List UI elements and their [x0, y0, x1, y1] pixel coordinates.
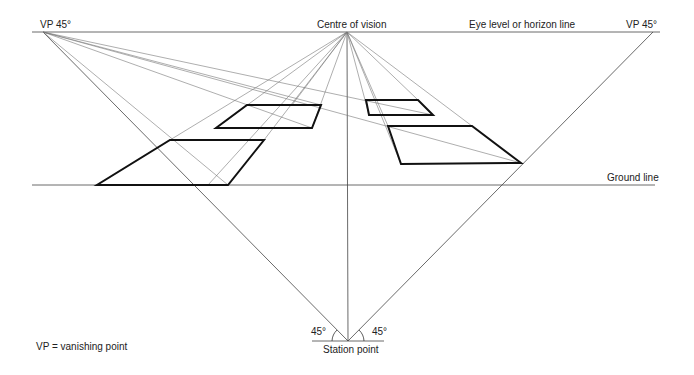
central-axis	[347, 32, 348, 341]
horizon-label: Eye level or horizon line	[469, 19, 575, 31]
small-left-square	[216, 105, 321, 128]
angle-right-label: 45°	[372, 326, 387, 338]
station-point-label: Station point	[323, 344, 379, 356]
angle-arc-right	[359, 330, 364, 341]
angle-arc-left	[332, 330, 337, 341]
vp-left-label: VP 45°	[40, 19, 71, 31]
centre-of-vision-label: Centre of vision	[317, 19, 386, 31]
angle-left-label: 45°	[311, 326, 326, 338]
ground-line-label: Ground line	[607, 172, 659, 184]
construction-lines	[43, 32, 521, 185]
diagram-canvas	[0, 0, 694, 375]
vp-right-label: VP 45°	[626, 19, 657, 31]
legend-label: VP = vanishing point	[36, 341, 127, 353]
vp-left-to-station	[43, 32, 348, 341]
vp-right-to-station	[348, 32, 653, 341]
large-left-square	[97, 140, 264, 185]
perspective-diagram: VP 45° Centre of vision Eye level or hor…	[0, 0, 694, 375]
